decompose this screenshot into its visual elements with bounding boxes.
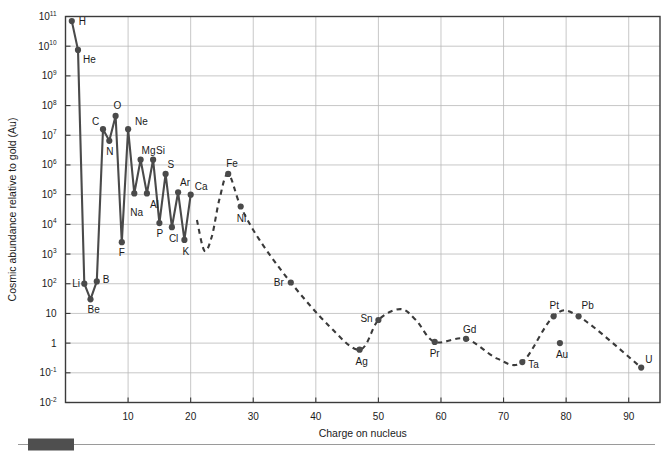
data-point-label: U: [645, 354, 652, 365]
data-point-marker: [113, 113, 119, 119]
data-point-marker: [557, 340, 563, 346]
data-point-label: Si: [156, 145, 165, 156]
chart-point-labels: HHeLiBeBCNOFNeNaMgAlSiPSClArKCaFeNiBrAgS…: [72, 16, 652, 370]
data-point-label: O: [114, 100, 122, 111]
data-point-marker: [119, 239, 125, 245]
data-point-label: F: [119, 247, 125, 258]
data-point-label: Mg: [142, 145, 156, 156]
x-tick-label: 20: [185, 411, 197, 422]
data-point-label: Be: [88, 304, 101, 315]
data-point-marker: [576, 313, 582, 319]
x-tick-label: 10: [123, 411, 135, 422]
data-point-label: Au: [556, 349, 568, 360]
data-point-marker: [169, 224, 175, 230]
y-tick-exponent: 9: [53, 69, 57, 76]
data-point-label: K: [182, 246, 189, 257]
y-tick-exponent: -1: [51, 366, 57, 373]
data-point-marker: [432, 339, 438, 345]
data-point-label: Ca: [195, 181, 208, 192]
y-tick-label: 1010: [38, 39, 57, 52]
y-tick-exponent: 11: [50, 10, 57, 17]
data-point-marker: [551, 313, 557, 319]
data-point-label: Na: [130, 207, 143, 218]
cosmic-abundance-chart: 1011101010910810710610510410310210110-11…: [0, 0, 671, 458]
data-point-marker: [357, 347, 363, 353]
y-tick-label: 102: [42, 277, 57, 290]
data-point-marker: [131, 190, 137, 196]
data-point-marker: [288, 279, 294, 285]
data-point-marker: [94, 278, 100, 284]
data-point-marker: [69, 18, 75, 24]
y-axis-title: Cosmic abundance relative to gold (Au): [6, 118, 18, 302]
y-tick-label: 104: [42, 217, 57, 230]
y-tick-exponent: 7: [53, 128, 57, 135]
data-point-marker: [138, 157, 144, 163]
x-axis-title: Charge on nucleus: [319, 427, 407, 439]
y-tick-label: 107: [42, 128, 57, 141]
x-tick-label: 80: [561, 411, 573, 422]
data-point-label: C: [92, 116, 99, 127]
x-tick-label: 40: [310, 411, 322, 422]
data-point-label: Fe: [226, 158, 238, 169]
data-point-label: Al: [150, 199, 159, 210]
data-point-label: B: [103, 274, 110, 285]
data-point-marker: [87, 296, 93, 302]
y-tick-label: 106: [42, 158, 57, 171]
y-tick-label: 105: [42, 188, 57, 201]
data-point-marker: [100, 126, 106, 132]
y-tick-exponent: 4: [53, 217, 57, 224]
x-tick-label: 70: [498, 411, 510, 422]
data-point-marker: [125, 126, 131, 132]
data-point-label: Sn: [360, 313, 372, 324]
x-tick-label: 90: [623, 411, 635, 422]
data-point-label: P: [156, 228, 163, 239]
data-point-marker: [638, 365, 644, 371]
y-tick-exponent: 8: [53, 99, 57, 106]
data-point-marker: [225, 171, 231, 177]
scrollbar-thumb[interactable]: [28, 439, 74, 451]
data-point-marker: [175, 189, 181, 195]
y-tick-label: 10: [45, 308, 57, 319]
y-tick-label: 1: [51, 338, 57, 349]
y-tick-exponent: -2: [51, 396, 57, 403]
x-tick-label: 60: [435, 411, 447, 422]
y-tick-label: 10-2: [40, 396, 57, 409]
data-point-marker: [150, 157, 156, 163]
data-point-label: Ar: [180, 177, 191, 188]
y-tick-label: 109: [42, 69, 57, 82]
data-point-label: Pb: [582, 300, 595, 311]
data-point-marker: [463, 336, 469, 342]
data-point-label: S: [168, 159, 175, 170]
y-tick-exponent: 2: [53, 277, 57, 284]
data-point-label: Ag: [356, 356, 368, 367]
data-point-label: Br: [274, 277, 285, 288]
data-point-marker: [156, 220, 162, 226]
data-point-label: N: [106, 146, 113, 157]
y-tick-exponent: 3: [53, 247, 57, 254]
y-tick-label: 108: [42, 99, 57, 112]
horizontal-scrollbar[interactable]: [18, 439, 655, 451]
data-point-marker: [144, 190, 150, 196]
x-axis-ticks: [128, 398, 629, 403]
x-tick-label: 50: [373, 411, 385, 422]
data-point-marker: [519, 359, 525, 365]
data-point-marker: [188, 192, 194, 198]
data-point-label: Ne: [135, 116, 148, 127]
data-point-marker: [163, 171, 169, 177]
x-tick-label: 30: [248, 411, 260, 422]
data-point-label: Ta: [528, 359, 539, 370]
data-point-marker: [106, 138, 112, 144]
data-point-label: H: [79, 16, 86, 27]
data-point-marker: [81, 281, 87, 287]
x-axis-tick-labels: 102030405060708090: [123, 411, 635, 422]
data-point-label: Li: [72, 278, 80, 289]
data-point-label: Ni: [237, 213, 246, 224]
y-tick-label: 103: [42, 247, 57, 260]
data-point-label: Pr: [430, 348, 441, 359]
y-tick-exponent: 10: [49, 39, 57, 46]
data-point-label: Cl: [169, 233, 178, 244]
y-tick-exponent: 5: [53, 188, 57, 195]
data-point-marker: [238, 203, 244, 209]
y-tick-label: 1011: [39, 10, 57, 23]
data-point-label: Gd: [463, 324, 476, 335]
